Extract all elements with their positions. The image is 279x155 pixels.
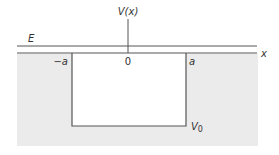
v-axis-label: V(x)	[118, 6, 139, 17]
origin-label: 0	[125, 56, 131, 67]
x-axis-label: x	[260, 48, 267, 59]
energy-label: E	[28, 33, 35, 44]
right-edge-label: a	[189, 56, 195, 67]
left-edge-label: −a	[53, 56, 68, 67]
potential-well-diagram: V(x) E x −a 0 a V0	[0, 0, 279, 155]
